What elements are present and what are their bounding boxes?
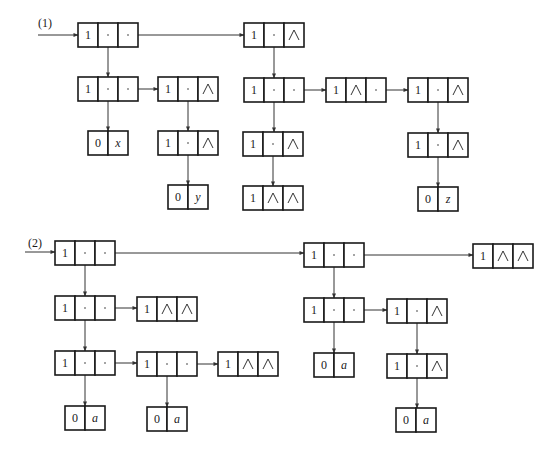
list-node: 1 [243,132,303,156]
tag-value: 1 [250,137,256,151]
tag-value: 1 [144,357,150,371]
list-node: 1 [244,23,304,47]
list-node: 1 [244,78,304,102]
pointer-origin-icon [127,34,129,36]
list-node: 1 [408,78,468,102]
tag-value: 0 [154,412,160,426]
list-node: 1 [387,354,447,378]
list-node: 1 [137,297,197,321]
pointer-origin-icon [273,89,275,91]
pointer-origin-icon [273,34,275,36]
node-cell [513,244,533,268]
atom-node: 0z [418,187,458,211]
node-cell [157,297,177,321]
list-node: 1 [78,77,138,101]
section-2-label: (2) [28,236,42,250]
list-node: 1 [304,243,364,267]
tag-value: 1 [85,28,91,42]
tag-value: 1 [144,302,150,316]
node-cell [198,77,218,101]
tag-value: 1 [251,83,257,97]
tag-value: 1 [480,249,486,263]
pointer-origin-icon [333,254,335,256]
atom-node: 0a [65,406,105,430]
pointer-origin-icon [437,144,439,146]
node-cell [263,186,283,210]
list-node: 1 [218,352,278,376]
tag-value: 1 [311,248,317,262]
list-node: 1 [387,299,447,323]
node-cell [427,354,447,378]
pointer-origin-icon [104,252,106,254]
tag-value: 1 [250,191,256,205]
tag-value: 0 [72,411,78,425]
pointer-origin-icon [104,307,106,309]
pointer-origin-icon [416,365,418,367]
pointer-origin-icon [437,89,439,91]
list-node: 1 [304,298,364,322]
node-cell [177,297,197,321]
pointer-origin-icon [186,363,188,365]
atom-value: y [194,190,201,204]
tag-value: 1 [62,301,68,315]
pointer-origin-icon [107,88,109,90]
section-2-label-group: (2) [28,236,42,250]
tag-value: 1 [85,82,91,96]
pointer-origin-icon [272,143,274,145]
list-node: 1 [55,351,115,375]
node-cell [258,352,278,376]
atom-node: 0a [396,408,436,432]
tag-value: 1 [251,28,257,42]
tag-value: 1 [311,303,317,317]
pointer-origin-icon [127,88,129,90]
node-cell [427,299,447,323]
list-node: 1 [326,78,386,102]
tag-value: 1 [394,304,400,318]
list-node: 1 [55,241,115,265]
atom-value: a [92,411,98,425]
pointer-origin-icon [375,89,377,91]
list-node: 1 [158,131,218,155]
pointer-origin-icon [353,254,355,256]
list-node: 1 [243,186,303,210]
tag-value: 1 [165,82,171,96]
list-node: 1 [137,352,197,376]
pointer-origin-icon [293,89,295,91]
tag-value: 1 [225,357,231,371]
pointer-origin-icon [353,309,355,311]
node-cell [238,352,258,376]
nodes-layer: 11111110x1110y10z11111111110a10a0a0a [55,23,533,432]
list-node: 1 [408,133,468,157]
tag-value: 1 [415,83,421,97]
atom-value: a [174,412,180,426]
node-cell [448,133,468,157]
tag-value: 0 [321,358,327,372]
node-cell [283,186,303,210]
list-node: 1 [55,296,115,320]
pointer-origin-icon [187,88,189,90]
atom-value: x [114,136,121,150]
pointer-origin-icon [84,252,86,254]
pointer-origin-icon [84,362,86,364]
tag-value: 1 [165,136,171,150]
pointer-origin-icon [84,307,86,309]
list-node: 1 [78,23,138,47]
atom-node: 0x [88,131,128,155]
node-cell [198,131,218,155]
tag-value: 0 [175,190,181,204]
generalized-list-diagram: (1) (2) 11111110x1110y10z11111111110a10a… [0,0,557,462]
section-1-label: (1) [38,16,52,30]
tag-value: 1 [394,359,400,373]
atom-node: 0a [147,407,187,431]
section-1-label-group: (1) [38,16,52,30]
tag-value: 1 [62,356,68,370]
pointer-origin-icon [107,34,109,36]
tag-value: 0 [95,136,101,150]
list-node: 1 [473,244,533,268]
atom-node: 0y [168,185,208,209]
atom-value: a [423,413,429,427]
pointer-origin-icon [333,309,335,311]
node-cell [283,132,303,156]
tag-value: 1 [333,83,339,97]
atom-node: 0a [314,353,354,377]
